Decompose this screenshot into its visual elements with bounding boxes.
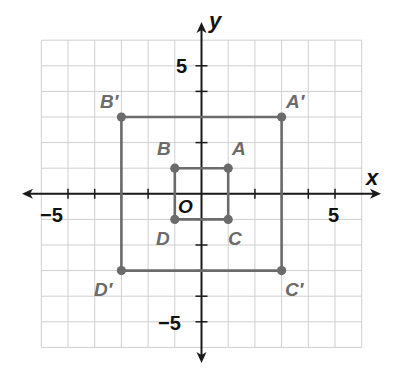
vertex-point: [224, 164, 233, 173]
x-tick-label-5: 5: [328, 204, 339, 226]
x-tick-label-neg5: −5: [40, 204, 63, 226]
y-tick-label-neg5: −5: [158, 312, 181, 334]
point-label-D: D: [156, 228, 170, 249]
origin-label: O: [178, 196, 193, 217]
vertex-point: [117, 266, 126, 275]
vertex-point: [170, 164, 179, 173]
vertex-point: [117, 112, 126, 121]
labels: x y O −5 5 5 −5 A B D C A′ B′ D′ C′: [40, 8, 379, 334]
point-label-D-prime: D′: [94, 279, 114, 300]
vertex-point: [277, 266, 286, 275]
point-label-B-prime: B′: [100, 91, 120, 112]
point-label-B: B: [157, 138, 171, 159]
point-label-A: A: [231, 138, 246, 159]
axes: [22, 22, 381, 363]
y-tick-label-5: 5: [176, 55, 187, 77]
coordinate-plane: x y O −5 5 5 −5 A B D C A′ B′ D′ C′: [0, 0, 393, 375]
x-axis-label: x: [365, 165, 379, 190]
point-label-A-prime: A′: [285, 91, 306, 112]
vertex-point: [224, 215, 233, 224]
point-label-C: C: [228, 228, 242, 249]
vertex-point: [277, 112, 286, 121]
point-label-C-prime: C′: [285, 279, 305, 300]
coordinate-plane-svg: x y O −5 5 5 −5 A B D C A′ B′ D′ C′: [0, 0, 393, 375]
y-axis-label: y: [208, 8, 223, 33]
